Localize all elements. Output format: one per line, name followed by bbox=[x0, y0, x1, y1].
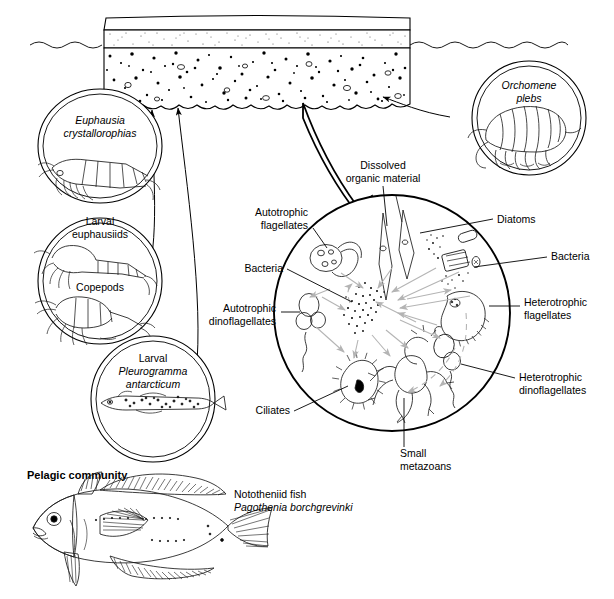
label-autotrophic-dinoflagellates-line1: Autotrophic bbox=[223, 302, 276, 314]
label-copepods: Copepods bbox=[76, 281, 124, 293]
diagram-canvas: Euphausia crystallorophias bbox=[0, 0, 614, 599]
sea-ice-food-web-diagram: Euphausia crystallorophias bbox=[0, 0, 614, 599]
label-autotrophic-flagellates-line1: Autotrophic bbox=[255, 206, 308, 218]
label-dissolved-organic-material-line1: Dissolved bbox=[360, 159, 406, 171]
label-bacteria-left: Bacteria bbox=[244, 262, 283, 274]
label-euphausia-line2: crystallorophias bbox=[64, 127, 138, 139]
label-small-metazoans-line1: Small bbox=[400, 447, 426, 459]
label-pleurogramma-line3: antarcticum bbox=[126, 378, 181, 390]
label-nototheniid-fish-line2: Pagothenia borchgrevinki bbox=[234, 501, 353, 513]
snow-layer bbox=[104, 16, 410, 31]
heading-pelagic-community: Pelagic community bbox=[27, 469, 128, 481]
circle-orchomene-plebs: Orchomene plebs bbox=[468, 61, 586, 175]
circle-euphausia-crystallorophias: Euphausia crystallorophias bbox=[38, 89, 162, 203]
label-larval-euphausiids-line2: euphausiids bbox=[72, 228, 128, 240]
algae-laden-bottom-ice bbox=[104, 48, 410, 110]
arrow-copepods-to-ice bbox=[178, 108, 198, 374]
label-ciliates: Ciliates bbox=[256, 404, 290, 416]
label-nototheniid-fish-line1: Nototheniid fish bbox=[234, 488, 307, 500]
label-autotrophic-dinoflagellates-line2: dinoflagellates bbox=[209, 315, 276, 327]
label-diatoms: Diatoms bbox=[497, 213, 536, 225]
microbial-loop-circle bbox=[274, 195, 510, 431]
label-pleurogramma-line2: Pleurogramma bbox=[119, 365, 188, 377]
label-orchomene-line2: plebs bbox=[515, 92, 542, 104]
label-bacteria-right: Bacteria bbox=[551, 250, 590, 262]
label-orchomene-line1: Orchomene bbox=[502, 79, 557, 91]
label-dissolved-organic-material-line2: organic material bbox=[346, 172, 421, 184]
label-larval-euphausiids-line1: Larval bbox=[86, 215, 115, 227]
label-autotrophic-flagellates-line2: flagellates bbox=[261, 219, 308, 231]
pelagic-community-section: Pelagic community bbox=[27, 469, 353, 586]
label-small-metazoans-line2: metazoans bbox=[400, 460, 451, 472]
label-pleurogramma-line1: Larval bbox=[139, 352, 168, 364]
circle-larval-pleurogramma: Larval Pleurogramma antarcticum bbox=[91, 336, 226, 462]
stippled-ice-layer bbox=[104, 30, 410, 48]
label-euphausia-line1: Euphausia bbox=[75, 114, 125, 126]
label-heterotrophic-dinoflagellates-line2: dinoflagellates bbox=[519, 384, 586, 396]
sea-ice-slab bbox=[104, 16, 410, 110]
circle-larval-euphausiids-copepods: Larval euphausiids Copepods bbox=[34, 215, 162, 345]
label-heterotrophic-flagellates-line2: flagellates bbox=[524, 309, 571, 321]
label-heterotrophic-dinoflagellates-line1: Heterotrophic bbox=[519, 371, 582, 383]
label-heterotrophic-flagellates-line1: Heterotrophic bbox=[524, 296, 587, 308]
